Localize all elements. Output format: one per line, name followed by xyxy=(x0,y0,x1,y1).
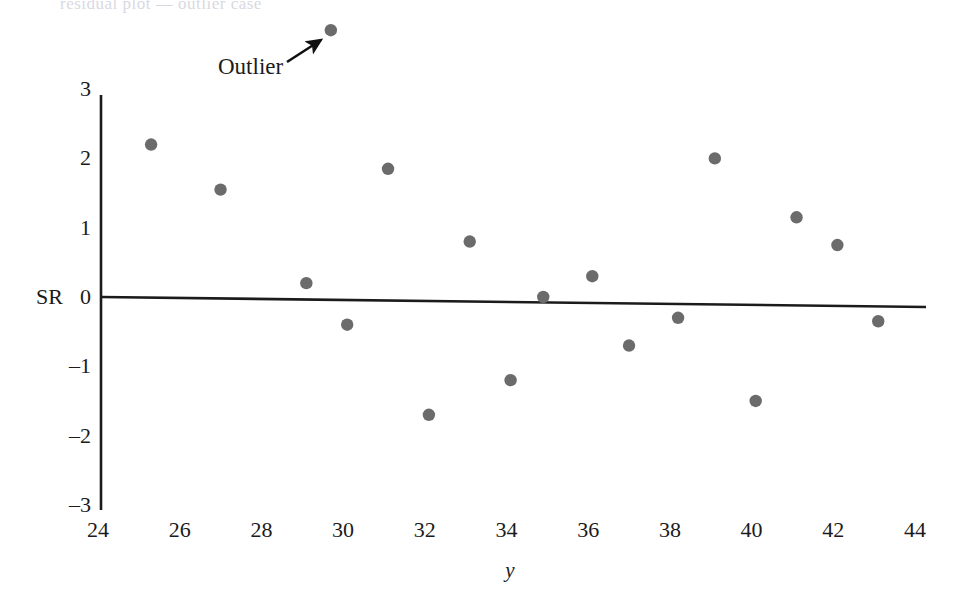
y-axis-tick-label: –2 xyxy=(69,425,91,447)
y-axis-tick-label: –3 xyxy=(69,494,91,516)
y-axis-title: SR xyxy=(36,286,63,308)
x-axis-tick-label: 40 xyxy=(741,519,763,541)
data-point xyxy=(341,319,353,331)
data-point xyxy=(464,235,476,247)
y-axis-tick-label: 1 xyxy=(80,217,91,239)
data-point xyxy=(623,339,635,351)
data-point-outlier xyxy=(325,24,337,36)
data-point xyxy=(145,138,157,150)
data-point xyxy=(831,239,843,251)
data-point xyxy=(672,312,684,324)
data-point xyxy=(423,409,435,421)
data-point xyxy=(790,211,802,223)
data-point xyxy=(382,163,394,175)
axis-group xyxy=(101,89,926,510)
x-axis-tick-label: 28 xyxy=(250,519,272,541)
x-axis-tick-label: 24 xyxy=(87,519,109,541)
data-point xyxy=(214,183,226,195)
data-point xyxy=(537,291,549,303)
x-axis-tick-label: 32 xyxy=(414,519,436,541)
x-axis-tick-label: 30 xyxy=(332,519,354,541)
annotation-arrow-group xyxy=(287,40,321,62)
data-point xyxy=(749,395,761,407)
y-axis-tick-label: –1 xyxy=(69,355,91,377)
plot-canvas xyxy=(0,0,960,616)
y-axis-tick-label: 0 xyxy=(80,286,91,308)
x-axis-tick-label: 44 xyxy=(904,519,926,541)
x-axis-tick-label: 38 xyxy=(659,519,681,541)
x-axis-tick-label: 34 xyxy=(496,519,518,541)
zero-reference-line xyxy=(101,297,926,307)
data-point xyxy=(300,277,312,289)
x-axis-tick-label: 36 xyxy=(577,519,599,541)
data-points-group xyxy=(145,24,885,421)
data-point xyxy=(586,270,598,282)
outlier-arrow-icon xyxy=(287,40,321,62)
x-axis-title: y xyxy=(505,560,514,581)
residual-scatter-figure: residual plot — outlier case 3210–1–2–32… xyxy=(0,0,960,616)
x-axis-tick-label: 42 xyxy=(822,519,844,541)
data-point xyxy=(709,152,721,164)
outlier-annotation-label: Outlier xyxy=(218,55,283,78)
data-point xyxy=(872,315,884,327)
y-axis-tick-label: 3 xyxy=(80,78,91,100)
data-point xyxy=(504,374,516,386)
y-axis-tick-label: 2 xyxy=(80,147,91,169)
x-axis-tick-label: 26 xyxy=(169,519,191,541)
